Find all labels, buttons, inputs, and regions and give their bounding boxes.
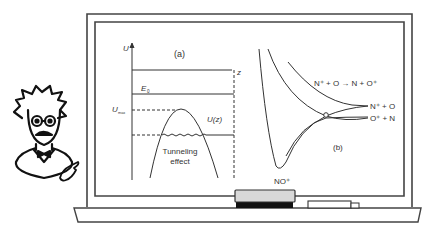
board-inner-frame (95, 22, 404, 196)
chalk-stick (308, 201, 351, 208)
tunneling-label-line1: Tunneling (163, 147, 198, 156)
blackboard (87, 14, 412, 207)
well-label: NO⁺ (274, 177, 290, 186)
asymptote-upper-label: N⁺ + O (370, 102, 395, 111)
eraser-top (235, 190, 295, 202)
tunneling-wave (162, 134, 206, 136)
chalk-stub (351, 203, 359, 208)
professor-icon (14, 86, 79, 181)
x-axis-label: z (236, 68, 241, 77)
reaction-label: N⁺ + O → N + O⁺ (314, 79, 377, 88)
crossing-point (324, 113, 329, 118)
panel-b-potential-curves (259, 49, 368, 168)
curve-label: U(z) (207, 115, 222, 124)
e0-subscript: 0 (147, 89, 150, 94)
blackboard-scene: U (a) z E 0 U max U(z) Tunneling effect … (0, 0, 430, 235)
bow-tie (38, 151, 50, 157)
chalk-tray (74, 190, 421, 222)
panel-a-labels: U (a) z E 0 U max U(z) Tunneling effect (112, 44, 241, 166)
panel-b-label: (b) (333, 143, 343, 152)
tunneling-label-line2: effect (170, 157, 190, 166)
y-axis-label: U (123, 44, 129, 53)
o-plus-n-curve (286, 117, 368, 156)
panel-a-label: (a) (174, 49, 185, 59)
asymptote-lower-label: O⁺ + N (370, 114, 395, 123)
panel-b-labels: N⁺ + O → N + O⁺ N⁺ + O O⁺ + N (b) NO⁺ (274, 79, 395, 186)
pointing-hand (60, 162, 79, 181)
hair (14, 86, 66, 118)
y-axis-arrow (130, 43, 134, 48)
umax-subscript: max (118, 111, 125, 115)
mustache (36, 132, 52, 135)
tray-ledge (74, 208, 421, 222)
face (28, 110, 60, 145)
board-outer-frame (87, 14, 412, 207)
